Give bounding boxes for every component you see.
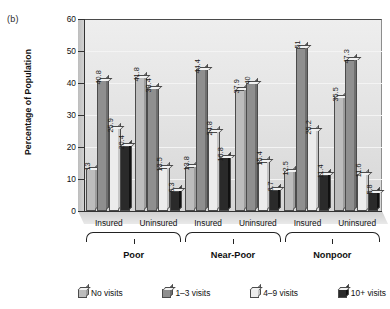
legend-label: No visits (91, 288, 123, 298)
bar-value-label: 41.8 (133, 67, 140, 81)
bar: 16.8 (219, 157, 229, 211)
bar-group: 12.55125.211.4 (283, 19, 333, 211)
bar-value-label: 11.4 (316, 165, 323, 179)
bracket-right-arm (232, 232, 281, 242)
bracket-right-arm (133, 232, 182, 242)
x-axis-label: Uninsured (332, 218, 382, 228)
x-axis-label: Insured (183, 218, 233, 228)
legend-item[interactable]: 10+ visits (338, 288, 386, 298)
legend-swatch (162, 289, 171, 298)
group-names: PoorNear-PoorNonpoor (78, 250, 388, 264)
legend-swatch (338, 289, 347, 298)
group-bracket (185, 232, 280, 243)
y-tick-label: 20 (50, 142, 76, 152)
bar-group: 41.838.413.56.3 (134, 19, 184, 211)
y-tick-label: 0 (50, 206, 76, 216)
bar: 40.8 (97, 80, 107, 211)
bar-value-label: 25.2 (305, 120, 312, 134)
bar-value-label: 20.4 (118, 136, 125, 150)
bar-group: 37.94015.46.7 (233, 19, 283, 211)
y-tick-label: 30 (50, 110, 76, 120)
x-axis-label: Uninsured (233, 218, 283, 228)
bracket-tip (233, 239, 234, 244)
bar: 12.5 (284, 171, 294, 211)
bar-value-label: 47.3 (343, 49, 350, 63)
plot-area: 0102030405060 1340.825.920.441.838.413.5… (78, 19, 382, 211)
bar: 44.4 (196, 69, 206, 211)
bar: 35.5 (334, 97, 344, 211)
bracket-tip (332, 239, 333, 244)
legend-swatch-top (250, 287, 263, 290)
bar: 6.7 (269, 190, 279, 211)
bar-value-label: 6.3 (167, 183, 174, 193)
bar-group: 35.547.311.65.8 (332, 19, 382, 211)
x-axis-line (84, 211, 382, 212)
panel-label: (b) (7, 14, 19, 24)
bar-value-label: 12.5 (282, 161, 289, 175)
bar-value-label: 37.9 (232, 80, 239, 94)
bracket-left-arm (86, 232, 135, 242)
legend-label: 1–3 visits (175, 288, 210, 298)
bar: 47.3 (345, 60, 355, 211)
group-name-label: Near-Poor (185, 250, 280, 260)
bar: 24.8 (208, 132, 218, 211)
bar-value-label: 5.8 (366, 184, 373, 194)
y-tick-label: 50 (50, 46, 76, 56)
x-axis-label: Insured (84, 218, 134, 228)
bar-value-label: 38.4 (144, 78, 151, 92)
legend-swatch-top (163, 287, 176, 290)
legend-swatch-top (338, 287, 351, 290)
y-tick-label: 10 (50, 174, 76, 184)
legend-item[interactable]: No visits (78, 288, 123, 298)
group-name-label: Nonpoor (285, 250, 380, 260)
bar-value-label: 11.6 (355, 164, 362, 178)
group-bracket (285, 232, 380, 243)
bar-value-label: 24.8 (206, 121, 213, 135)
bar-value-label: 25.9 (106, 118, 113, 132)
legend-label: 4–9 visits (263, 288, 298, 298)
bar: 13.8 (185, 167, 195, 211)
bar-group: 1340.825.920.4 (84, 19, 134, 211)
bar-value-label: 13.8 (183, 157, 190, 171)
group-bracket (86, 232, 181, 243)
x-axis-label: Uninsured (134, 218, 184, 228)
bar: 20.4 (120, 146, 130, 211)
chart-legend: No visits1–3 visits4–9 visits10+ visits (78, 283, 386, 303)
bar: 38.4 (147, 88, 157, 211)
bar-side-face (129, 140, 132, 210)
legend-item[interactable]: 1–3 visits (162, 288, 210, 298)
bar-value-label: 40.8 (95, 70, 102, 84)
figure-panel: (b) Percentage of Population 01020304050… (0, 0, 390, 309)
bar-side-face (228, 151, 231, 210)
bar: 13 (86, 169, 96, 211)
bar-value-label: 51 (293, 41, 300, 49)
bar: 41.8 (135, 77, 145, 211)
bar-value-label: 6.7 (267, 181, 274, 191)
bar-group: 13.844.424.816.8 (183, 19, 233, 211)
bar-value-label: 40 (244, 76, 251, 84)
bar-value-label: 15.4 (255, 152, 262, 166)
bar: 11.4 (319, 175, 329, 211)
y-axis-title: Percentage of Population (23, 37, 33, 167)
legend-swatch-top (78, 287, 91, 290)
bar: 40 (246, 83, 256, 211)
bar-value-label: 44.4 (194, 59, 201, 73)
bar-value-label: 16.8 (217, 147, 224, 161)
bar: 37.9 (235, 90, 245, 211)
bar-value-label: 13.5 (156, 158, 163, 172)
bar: 6.3 (170, 191, 180, 211)
group-name-label: Poor (86, 250, 181, 260)
legend-item[interactable]: 4–9 visits (250, 288, 298, 298)
y-tick-label: 60 (50, 14, 76, 24)
y-tick-label: 40 (50, 78, 76, 88)
x-axis-labels: InsuredUninsuredInsuredUninsuredInsuredU… (78, 218, 388, 230)
x-axis-label: Insured (283, 218, 333, 228)
bar-value-label: 35.5 (332, 87, 339, 101)
legend-swatch (78, 289, 87, 298)
legend-swatch (250, 289, 259, 298)
bracket-right-arm (331, 232, 380, 242)
bracket-left-arm (285, 232, 334, 242)
legend-label: 10+ visits (351, 288, 386, 298)
y-axis-line (84, 19, 85, 211)
group-brackets (78, 232, 388, 248)
